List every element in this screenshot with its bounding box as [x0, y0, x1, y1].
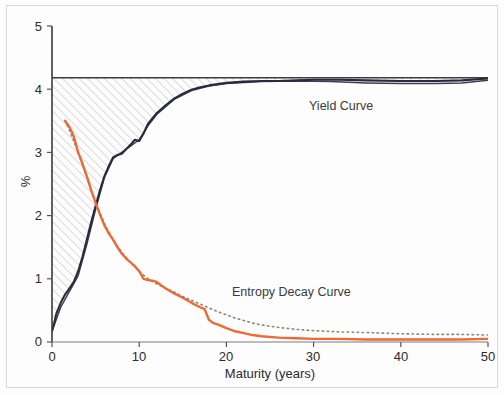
y-tick-label-2: 2 — [22, 208, 42, 223]
x-axis-ticks — [52, 342, 488, 347]
annotation-yield-curve: Yield Curve — [309, 99, 373, 113]
y-tick-label-3: 3 — [22, 145, 42, 160]
x-tick-label-40: 40 — [385, 349, 417, 364]
annotation-entropy-decay-curve: Entropy Decay Curve — [232, 285, 351, 299]
y-tick-label-5: 5 — [22, 19, 42, 34]
chart-figure: 5 4 3 2 1 0 0 10 20 30 40 50 % Maturity … — [0, 0, 504, 395]
y-tick-label-0: 0 — [22, 334, 42, 349]
series-line-entropy-fitted — [65, 121, 488, 335]
y-axis-title: % — [18, 171, 33, 193]
chart-plot-canvas — [0, 0, 504, 395]
y-tick-label-1: 1 — [22, 271, 42, 286]
x-tick-label-0: 0 — [36, 349, 68, 364]
x-axis-title: Maturity (years) — [52, 366, 488, 381]
y-tick-label-4: 4 — [22, 82, 42, 97]
x-tick-label-20: 20 — [210, 349, 242, 364]
x-tick-label-10: 10 — [123, 349, 155, 364]
x-tick-label-50: 50 — [472, 349, 504, 364]
x-tick-label-30: 30 — [297, 349, 329, 364]
series-line-entropy-decay — [65, 121, 488, 340]
